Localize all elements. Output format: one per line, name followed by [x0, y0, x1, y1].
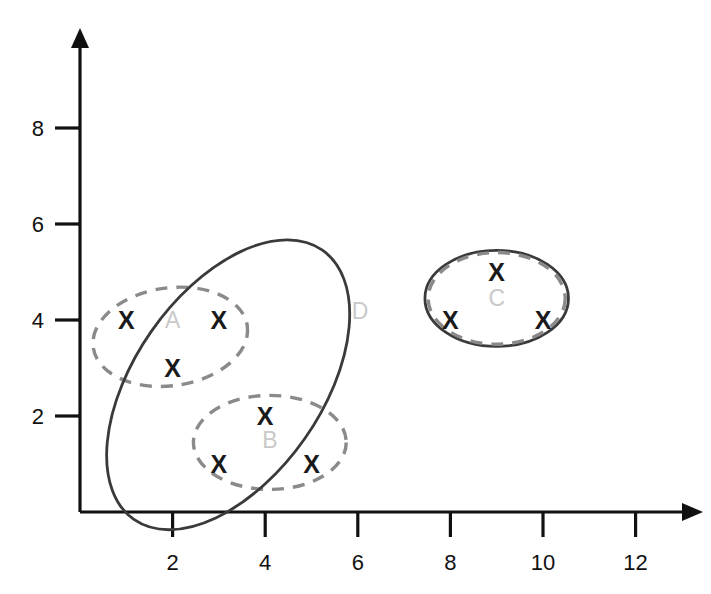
y-axis-tick-labels: 2468 — [32, 116, 44, 429]
data-point-marker: X — [211, 306, 228, 334]
y-tick-label: 6 — [32, 212, 44, 237]
data-point-marker: X — [303, 450, 320, 478]
data-point-marker: X — [442, 306, 459, 334]
cluster-label-c: C — [488, 285, 505, 311]
y-axis-ticks — [55, 128, 80, 416]
data-point-marker: X — [164, 354, 181, 382]
x-tick-label: 8 — [444, 550, 456, 575]
data-point-marker: X — [257, 402, 274, 430]
x-tick-label: 6 — [352, 550, 364, 575]
cluster-label-a: A — [165, 307, 181, 333]
cluster-label-d: D — [352, 298, 369, 324]
y-axis: 2468 — [32, 28, 89, 512]
plot-canvas: 2468 24681012 ABCD XXXXXXXXX — [0, 0, 711, 594]
x-tick-label: 12 — [623, 550, 647, 575]
y-axis-arrowhead-icon — [71, 28, 89, 48]
x-axis: 24681012 — [80, 503, 703, 575]
x-tick-label: 10 — [531, 550, 555, 575]
x-tick-label: 2 — [166, 550, 178, 575]
y-tick-label: 2 — [32, 404, 44, 429]
cluster-boundary-d — [57, 196, 399, 573]
x-axis-ticks — [173, 512, 636, 537]
y-tick-label: 8 — [32, 116, 44, 141]
cluster-label-b: B — [262, 427, 277, 453]
x-axis-arrowhead-icon — [682, 503, 703, 521]
data-point-marker: X — [211, 450, 228, 478]
x-axis-tick-labels: 24681012 — [166, 550, 647, 575]
data-point-marker: X — [488, 258, 505, 286]
x-tick-label: 4 — [259, 550, 271, 575]
data-point-marker: X — [535, 306, 552, 334]
cluster-scatter-figure: 2468 24681012 ABCD XXXXXXXXX — [0, 0, 711, 594]
y-tick-label: 4 — [32, 308, 44, 333]
data-point-marker: X — [118, 306, 135, 334]
cluster-outlines — [57, 196, 568, 573]
data-point-markers: XXXXXXXXX — [118, 258, 552, 478]
